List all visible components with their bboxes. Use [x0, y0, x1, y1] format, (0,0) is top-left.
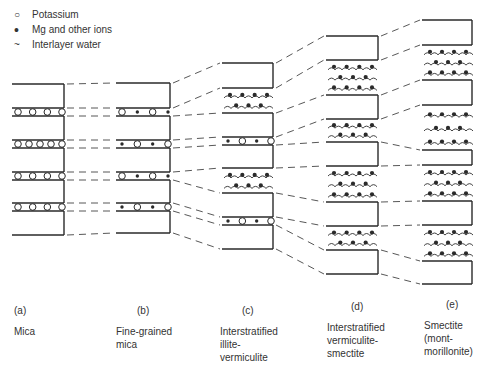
mg-ion-icon [464, 50, 468, 54]
column-label-a: (a) Mica [14, 304, 35, 338]
label-name: Interstratified [327, 322, 385, 333]
label-letter: (c) [220, 304, 278, 317]
legend-label: Interlayer water [32, 39, 101, 50]
label-name: morillonite) [424, 346, 473, 357]
label-letter: (a) [14, 304, 35, 317]
column-label-b: (b) Fine-grained mica [116, 304, 172, 351]
mg-ion-icon [440, 251, 444, 255]
potassium-ion-icon [239, 218, 246, 225]
mg-ion-icon [259, 103, 263, 107]
mg-ion-icon [464, 170, 468, 174]
label-letter: (e) [424, 298, 473, 311]
mg-ion-icon [226, 139, 229, 142]
column-label-d: (d) Interstratified vermiculite- smectit… [327, 300, 385, 360]
mg-ion-icon [452, 139, 456, 143]
mg-ion-icon [446, 126, 450, 130]
potassium-ion-icon [134, 141, 141, 148]
mg-ion-icon [338, 75, 342, 79]
mg-ion-icon [452, 230, 456, 234]
mg-ion-icon [332, 123, 336, 127]
mg-ion-icon [428, 251, 432, 255]
mg-ion-icon [240, 93, 244, 97]
column-a [12, 84, 65, 235]
mg-ion-icon [364, 240, 368, 244]
legend-item-water: ~ Interlayer water [14, 37, 112, 52]
mg-ion-icon [234, 183, 238, 187]
mg-ion-icon [452, 70, 456, 74]
potassium-ion-icon [37, 141, 44, 148]
legend-item-mg: • Mg and other ions [14, 22, 112, 37]
label-name: Mica [14, 326, 35, 337]
mg-ion-icon [338, 133, 342, 137]
mg-ion-icon [246, 183, 250, 187]
mg-ion-icon [428, 139, 432, 143]
potassium-ion-icon [59, 204, 66, 211]
mg-ion-icon [253, 173, 257, 177]
mg-ion-icon [458, 181, 462, 185]
mg-ion-icon [446, 241, 450, 245]
potassium-ion-icon [119, 109, 126, 116]
mg-ion-icon [440, 230, 444, 234]
mg-ion-icon [345, 230, 349, 234]
mg-ion-icon [357, 230, 361, 234]
mg-ion-icon [338, 240, 342, 244]
mg-ion-icon [332, 65, 336, 69]
mg-ion-icon [332, 192, 336, 196]
mg-ion-icon [370, 192, 374, 196]
mg-ion-icon [464, 112, 468, 116]
potassium-ion-icon [15, 109, 22, 116]
mg-ion-icon [464, 251, 468, 255]
mg-ion-icon [434, 241, 438, 245]
mg-ion-icon [345, 85, 349, 89]
potassium-ion-icon [59, 173, 66, 180]
mg-ion-icon [255, 139, 258, 142]
potassium-ion-icon [15, 204, 22, 211]
open-circle-icon: ○ [14, 9, 32, 20]
mg-ion-icon [446, 60, 450, 64]
wave-icon: ~ [14, 39, 32, 50]
potassium-ion-icon [134, 204, 141, 211]
mg-ion-icon [364, 182, 368, 186]
potassium-ion-icon [15, 173, 22, 180]
mg-ion-icon [345, 65, 349, 69]
mg-ion-icon [357, 85, 361, 89]
mg-ion-icon [357, 171, 361, 175]
column-label-c: (c) Interstratified illite- vermiculite [220, 304, 278, 364]
mg-ion-icon [345, 171, 349, 175]
potassium-ion-icon [29, 173, 36, 180]
mg-ion-icon [428, 112, 432, 116]
potassium-ion-icon [59, 109, 66, 116]
mg-ion-icon [166, 110, 169, 113]
mg-ion-icon [452, 170, 456, 174]
potassium-ion-icon [149, 109, 156, 116]
mg-ion-icon [120, 142, 123, 145]
mg-ion-icon [440, 170, 444, 174]
label-name: smectite [327, 348, 364, 359]
mg-ion-icon [246, 103, 250, 107]
mg-ion-icon [434, 181, 438, 185]
mg-ion-icon [428, 191, 432, 195]
mg-ion-icon [136, 174, 139, 177]
potassium-ion-icon [119, 173, 126, 180]
mg-ion-icon [332, 230, 336, 234]
mg-ion-icon [440, 50, 444, 54]
potassium-ion-icon [29, 109, 36, 116]
legend: ○ Potassium • Mg and other ions ~ Interl… [14, 7, 112, 52]
mg-ion-icon [440, 191, 444, 195]
potassium-ion-icon [44, 109, 51, 116]
mg-ion-icon [228, 93, 232, 97]
potassium-ion-icon [26, 141, 33, 148]
mg-ion-icon [452, 251, 456, 255]
mg-ion-icon [452, 112, 456, 116]
mg-ion-icon [370, 171, 374, 175]
mg-ion-icon [228, 173, 232, 177]
mg-ion-icon [428, 230, 432, 234]
mg-ion-icon [226, 219, 229, 222]
label-letter: (b) [116, 304, 172, 317]
mg-ion-icon [428, 170, 432, 174]
mg-ion-icon [452, 191, 456, 195]
mg-ion-icon [452, 50, 456, 54]
mg-ion-icon [136, 110, 139, 113]
potassium-ion-icon [239, 138, 246, 145]
mg-ion-icon [357, 192, 361, 196]
